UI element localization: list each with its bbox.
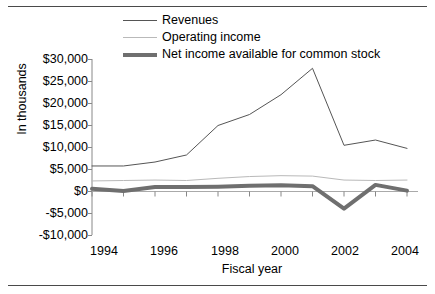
figure: Revenues Operating income Net income ava…	[0, 0, 435, 294]
data-series	[92, 68, 407, 208]
y-axis-ticks	[88, 60, 92, 236]
series-line	[92, 68, 407, 166]
axis-lines	[92, 59, 418, 235]
plot-area	[0, 0, 435, 294]
series-line	[92, 176, 407, 181]
series-line	[92, 185, 407, 209]
